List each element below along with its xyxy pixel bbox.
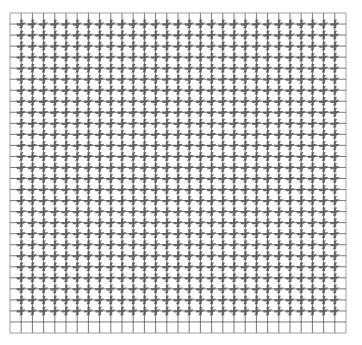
pinwheel-grid [0, 0, 362, 345]
grid-lines [10, 13, 346, 333]
